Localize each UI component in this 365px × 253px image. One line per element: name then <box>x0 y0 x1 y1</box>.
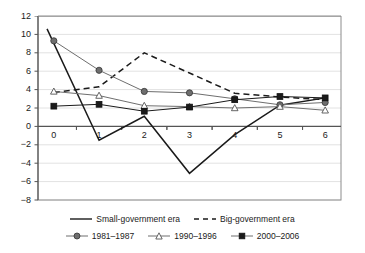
legend-item[interactable]: Big-government era <box>194 213 295 224</box>
legend-swatch-circle <box>66 232 88 240</box>
data-point-square <box>277 94 283 100</box>
y-tick-label: 4 <box>0 85 31 94</box>
y-tick-label: 0 <box>0 122 31 131</box>
legend-label: 2000–2006 <box>257 231 300 241</box>
series-line <box>47 29 325 173</box>
y-tick-label: 2 <box>0 104 31 113</box>
data-point-square <box>51 103 57 109</box>
data-point-square <box>322 95 328 101</box>
legend-item[interactable]: 2000–2006 <box>231 230 300 241</box>
data-point-square <box>96 101 102 107</box>
chart-container: 121086420−2−4−6−8 0123456 Small-governme… <box>0 0 365 253</box>
legend-item[interactable]: 1990–1996 <box>148 230 217 241</box>
data-point-circle <box>51 38 57 44</box>
data-point-circle <box>96 67 102 73</box>
y-tick-label: −4 <box>0 159 31 168</box>
y-tick-label: −8 <box>0 196 31 205</box>
y-tick-label: −2 <box>0 140 31 149</box>
y-tick-label: 6 <box>0 67 31 76</box>
legend-swatch-square <box>231 232 253 240</box>
y-tick-label: 10 <box>0 30 31 39</box>
x-tick-label: 6 <box>311 131 339 140</box>
data-point-square <box>141 108 147 114</box>
legend-row-eras: Small-government eraBig-government era <box>0 213 365 224</box>
x-tick-label: 0 <box>40 131 68 140</box>
legend-row-periods: 1981–19871990–19962000–2006 <box>0 230 365 241</box>
y-tick-label: 12 <box>0 12 31 21</box>
legend-item[interactable]: 1981–1987 <box>66 230 135 241</box>
legend-swatch-solid <box>70 215 92 223</box>
y-tick-label: −6 <box>0 177 31 186</box>
top-mask <box>0 0 365 16</box>
legend-item[interactable]: Small-government era <box>70 213 180 224</box>
series-1 <box>47 29 325 173</box>
data-point-circle <box>141 88 147 94</box>
x-tick-label: 4 <box>221 131 249 140</box>
data-point-square <box>187 104 193 110</box>
x-tick-label: 1 <box>85 131 113 140</box>
data-point-triangle <box>51 88 58 94</box>
legend-label: 1990–1996 <box>174 231 217 241</box>
legend-label: Small-government era <box>96 214 180 224</box>
data-point-circle <box>186 90 192 96</box>
y-tick-label: 8 <box>0 48 31 57</box>
legend-swatch-dashed <box>194 215 216 223</box>
x-tick-label: 3 <box>176 131 204 140</box>
legend-swatch-triangle <box>148 232 170 240</box>
legend-label: 1981–1987 <box>92 231 135 241</box>
x-tick-label: 5 <box>266 131 294 140</box>
x-tick-label: 2 <box>130 131 158 140</box>
data-point-square <box>232 97 238 103</box>
legend-label: Big-government era <box>220 214 295 224</box>
